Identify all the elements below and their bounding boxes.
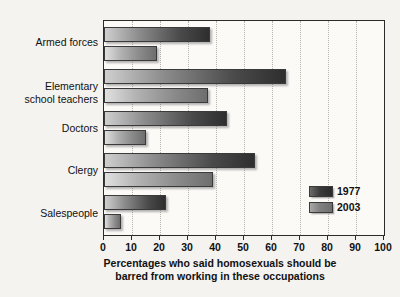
xtick-mark-30 xyxy=(187,235,188,240)
legend-label-2003: 2003 xyxy=(337,201,360,213)
xtick-label-80: 80 xyxy=(321,241,333,253)
bar-clergy-2003 xyxy=(104,172,213,187)
xtick-mark-60 xyxy=(271,235,272,240)
xtick-mark-10 xyxy=(131,235,132,240)
bar-salespeople-2003 xyxy=(104,214,121,229)
bar-clergy-1977 xyxy=(104,153,255,168)
xtick-mark-20 xyxy=(159,235,160,240)
xtick-label-0: 0 xyxy=(100,241,106,253)
axis-caption-line-2: barred from working in these occupations xyxy=(60,270,380,283)
bar-salespeople-1977 xyxy=(104,195,166,210)
axis-caption-line-1: Percentages who said homosexuals should … xyxy=(60,257,380,270)
bar-elementary-teachers-1977 xyxy=(104,69,286,84)
bar-group-elementary-teachers xyxy=(104,69,384,106)
xtick-mark-90 xyxy=(355,235,356,240)
xtick-label-20: 20 xyxy=(153,241,165,253)
xtick-mark-100 xyxy=(383,235,384,240)
xtick-mark-70 xyxy=(299,235,300,240)
xtick-label-40: 40 xyxy=(209,241,221,253)
legend-label-1977: 1977 xyxy=(337,185,360,197)
legend-item-1977: 1977 xyxy=(309,184,360,198)
bar-armed-forces-1977 xyxy=(104,27,210,42)
legend-swatch-1977 xyxy=(309,186,333,197)
xtick-mark-50 xyxy=(243,235,244,240)
xtick-mark-0 xyxy=(103,235,104,240)
bar-group-armed-forces xyxy=(104,27,384,64)
legend-item-2003: 2003 xyxy=(309,200,360,214)
bar-group-doctors xyxy=(104,111,384,148)
category-label-salespeople: Salespeople xyxy=(40,207,98,220)
category-label-elementary-teachers: Elementary school teachers xyxy=(24,80,98,105)
bar-chart: Armed forces Elementary school teachers … xyxy=(0,0,400,297)
xtick-label-10: 10 xyxy=(125,241,137,253)
legend-swatch-2003 xyxy=(309,202,333,213)
axis-caption: Percentages who said homosexuals should … xyxy=(60,257,380,283)
xtick-label-30: 30 xyxy=(181,241,193,253)
bar-elementary-teachers-2003 xyxy=(104,88,208,103)
category-label-clergy: Clergy xyxy=(68,164,98,177)
bar-armed-forces-2003 xyxy=(104,46,157,61)
plot-area: 1977 2003 xyxy=(103,20,385,236)
category-label-doctors: Doctors xyxy=(62,122,98,135)
xtick-label-50: 50 xyxy=(237,241,249,253)
xtick-label-100: 100 xyxy=(374,241,392,253)
xtick-label-90: 90 xyxy=(349,241,361,253)
category-label-armed-forces: Armed forces xyxy=(36,36,98,49)
bar-doctors-1977 xyxy=(104,111,227,126)
xtick-label-60: 60 xyxy=(265,241,277,253)
legend: 1977 2003 xyxy=(309,184,360,216)
xtick-mark-80 xyxy=(327,235,328,240)
xtick-label-70: 70 xyxy=(293,241,305,253)
xtick-mark-40 xyxy=(215,235,216,240)
bar-doctors-2003 xyxy=(104,130,146,145)
